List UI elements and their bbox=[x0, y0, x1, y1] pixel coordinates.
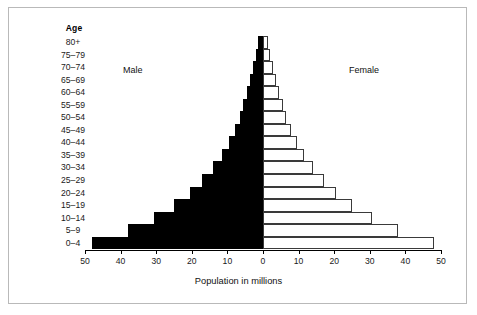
male-bar bbox=[174, 199, 263, 212]
x-axis-tick bbox=[192, 250, 193, 254]
male-bar bbox=[253, 61, 263, 74]
x-axis-tick bbox=[227, 250, 228, 254]
pyramid-row bbox=[85, 36, 441, 49]
female-bar bbox=[263, 174, 324, 187]
female-bar bbox=[263, 99, 283, 112]
male-bar bbox=[92, 237, 263, 250]
female-bar bbox=[263, 124, 291, 137]
x-axis-tick-label: 30 bbox=[141, 256, 171, 266]
x-axis-tick bbox=[85, 250, 86, 254]
x-axis-tick-label: 20 bbox=[319, 256, 349, 266]
x-axis-tick bbox=[121, 250, 122, 254]
pyramid-row bbox=[85, 99, 441, 112]
female-bar bbox=[263, 136, 297, 149]
pyramid-row bbox=[85, 199, 441, 212]
x-axis-tick-label: 30 bbox=[355, 256, 385, 266]
female-bar bbox=[263, 149, 304, 162]
female-bar bbox=[263, 74, 276, 87]
male-bar bbox=[250, 74, 263, 87]
x-axis-tick-label: 50 bbox=[426, 256, 456, 266]
pyramid-row bbox=[85, 187, 441, 200]
male-bar bbox=[154, 212, 263, 225]
x-axis-tick bbox=[405, 250, 406, 254]
x-axis-tick-label: 10 bbox=[284, 256, 314, 266]
female-bar bbox=[263, 161, 313, 174]
pyramid-row bbox=[85, 61, 441, 74]
female-bar bbox=[263, 86, 279, 99]
male-bar bbox=[235, 124, 263, 137]
pyramid-row bbox=[85, 74, 441, 87]
x-axis-tick bbox=[299, 250, 300, 254]
pyramid-row bbox=[85, 212, 441, 225]
x-axis-tick-label: 50 bbox=[70, 256, 100, 266]
pyramid-row bbox=[85, 237, 441, 250]
male-bar bbox=[128, 224, 263, 237]
female-bar bbox=[263, 199, 352, 212]
population-pyramid-figure: Age 80+75–7970–7465–6960–6455–5950–5445–… bbox=[0, 0, 477, 315]
pyramid-row bbox=[85, 161, 441, 174]
x-axis-tick-label: 10 bbox=[212, 256, 242, 266]
female-bar bbox=[263, 237, 434, 250]
male-bar bbox=[256, 49, 263, 62]
male-bar bbox=[243, 99, 263, 112]
pyramid-row bbox=[85, 149, 441, 162]
male-bar bbox=[240, 111, 263, 124]
female-bar bbox=[263, 212, 372, 225]
female-bar bbox=[263, 187, 336, 200]
x-axis-tick-label: 40 bbox=[390, 256, 420, 266]
female-bar bbox=[263, 224, 398, 237]
male-bar bbox=[222, 149, 263, 162]
x-axis-tick bbox=[263, 250, 264, 254]
x-axis-tick bbox=[441, 250, 442, 254]
x-axis-tick-label: 40 bbox=[106, 256, 136, 266]
female-bar bbox=[263, 61, 273, 74]
pyramid-row bbox=[85, 111, 441, 124]
female-bar bbox=[263, 36, 268, 49]
pyramid-row bbox=[85, 174, 441, 187]
female-bar bbox=[263, 111, 286, 124]
female-bar bbox=[263, 49, 270, 62]
male-bar bbox=[202, 174, 263, 187]
pyramid-row bbox=[85, 86, 441, 99]
male-bar bbox=[229, 136, 263, 149]
pyramid-plot-area bbox=[85, 36, 441, 250]
pyramid-row bbox=[85, 224, 441, 237]
male-bar bbox=[190, 187, 263, 200]
x-axis-tick-label: 0 bbox=[248, 256, 278, 266]
male-bar bbox=[213, 161, 263, 174]
pyramid-row bbox=[85, 49, 441, 62]
pyramid-row bbox=[85, 124, 441, 137]
x-axis-tick bbox=[156, 250, 157, 254]
pyramid-row bbox=[85, 136, 441, 149]
age-column-header: Age bbox=[44, 23, 104, 33]
male-bar bbox=[247, 86, 263, 99]
x-axis-tick-label: 20 bbox=[177, 256, 207, 266]
x-axis-tick bbox=[370, 250, 371, 254]
x-axis-title: Population in millions bbox=[0, 276, 477, 286]
x-axis-tick bbox=[334, 250, 335, 254]
